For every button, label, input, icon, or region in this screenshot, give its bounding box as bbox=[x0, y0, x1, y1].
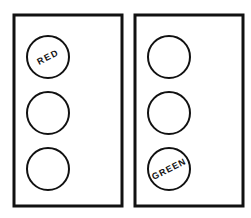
left-signal-housing-lamp-amber[interactable] bbox=[27, 92, 69, 134]
lamp-amber-circle bbox=[27, 92, 69, 134]
right-signal-housing-lamp-red[interactable] bbox=[148, 36, 190, 78]
left-traffic-light-housing[interactable]: RED bbox=[14, 15, 122, 206]
left-signal-housing-lamp-red[interactable]: RED bbox=[27, 36, 69, 78]
right-signal-housing-lamp-green[interactable]: GREEN bbox=[148, 148, 190, 190]
right-signal-housing-lamp-amber[interactable] bbox=[148, 92, 190, 134]
right-traffic-light-housing[interactable]: GREEN bbox=[135, 15, 243, 206]
left-signal-housing-lamp-green[interactable] bbox=[27, 148, 69, 190]
traffic-light-diagram: REDGREEN bbox=[0, 0, 251, 218]
diagram-canvas: REDGREEN Traffic Light Signal Faces bbox=[0, 0, 251, 218]
lamp-amber-circle bbox=[148, 92, 190, 134]
lamp-red-circle bbox=[148, 36, 190, 78]
lamp-green-circle bbox=[27, 148, 69, 190]
